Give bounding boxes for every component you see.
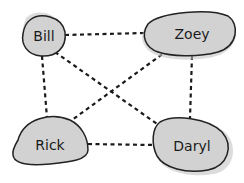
edge-bill-rick	[42, 56, 47, 118]
node-label-daryl: Daryl	[173, 138, 210, 154]
node-label-zoey: Zoey	[174, 26, 209, 42]
edge-bill-zoey	[65, 33, 144, 35]
node-daryl[interactable]: Daryl	[153, 118, 233, 175]
edge-bill-daryl	[55, 52, 160, 126]
graph-diagram: Bill Zoey Rick Daryl	[0, 0, 244, 183]
edge-zoey-rick	[72, 50, 168, 120]
node-rick[interactable]: Rick	[13, 117, 88, 165]
edge-zoey-daryl	[190, 56, 192, 118]
node-bill[interactable]: Bill	[22, 13, 65, 57]
node-zoey[interactable]: Zoey	[142, 12, 236, 60]
edge-rick-daryl	[88, 144, 154, 145]
node-label-rick: Rick	[35, 137, 65, 153]
node-label-bill: Bill	[33, 28, 54, 44]
